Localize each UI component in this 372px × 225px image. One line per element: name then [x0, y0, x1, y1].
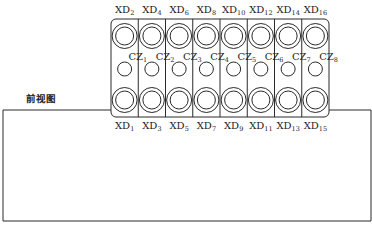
terminal-label-bottom: XD1	[115, 120, 134, 133]
view-title: 前视图	[26, 93, 56, 104]
front-view-diagram: 前视图 XD2XD4XD6XD8XD10XD12XD14XD16 CZ1CZ2C…	[0, 0, 372, 225]
terminal-inner-ring	[252, 27, 270, 45]
terminal-column	[248, 24, 273, 113]
terminal-inner-ring	[116, 27, 134, 45]
terminal-label-bottom: XD3	[142, 120, 161, 133]
terminal-inner-ring	[306, 27, 324, 45]
terminal-label-bottom: XD13	[276, 120, 299, 133]
socket-circle	[308, 62, 322, 76]
terminal-column	[194, 24, 219, 113]
socket-circle	[118, 62, 132, 76]
socket-circle	[145, 62, 159, 76]
terminal-label-bottom: XD15	[304, 120, 327, 133]
socket-circle	[227, 62, 241, 76]
terminal-label-top: XD16	[304, 4, 327, 17]
terminal-inner-ring	[116, 91, 134, 109]
terminal-label-top: XD2	[115, 4, 134, 17]
terminal-inner-ring	[279, 27, 297, 45]
socket-circle	[254, 62, 268, 76]
bottom-terminal-labels: XD1XD3XD5XD7XD9XD11XD13XD15	[115, 120, 327, 133]
terminal-inner-ring	[252, 91, 270, 109]
terminal-label-top: XD14	[276, 4, 299, 17]
terminal-column	[276, 24, 301, 113]
terminal-inner-ring	[306, 91, 324, 109]
terminal-column	[221, 24, 246, 113]
terminal-inner-ring	[197, 27, 215, 45]
terminal-inner-ring	[225, 27, 243, 45]
terminal-inner-ring	[279, 91, 297, 109]
terminal-label-top: XD12	[249, 4, 272, 17]
terminal-inner-ring	[170, 27, 188, 45]
terminal-column	[167, 24, 192, 113]
terminal-label-top: XD4	[142, 4, 161, 17]
connector-block	[111, 19, 329, 117]
terminal-inner-ring	[170, 91, 188, 109]
socket-circle	[199, 62, 213, 76]
terminal-label-bottom: XD5	[169, 120, 188, 133]
terminal-label-top: XD8	[197, 4, 216, 17]
terminal-label-bottom: XD9	[224, 120, 243, 133]
terminal-column	[303, 24, 328, 113]
terminal-inner-ring	[143, 91, 161, 109]
terminal-inner-ring	[143, 27, 161, 45]
terminal-label-bottom: XD7	[197, 120, 216, 133]
terminal-column	[139, 24, 164, 113]
socket-circle	[281, 62, 295, 76]
socket-circle	[172, 62, 186, 76]
terminal-inner-ring	[225, 91, 243, 109]
terminal-inner-ring	[197, 91, 215, 109]
terminal-label-bottom: XD11	[249, 120, 272, 133]
terminal-label-top: XD6	[169, 4, 188, 17]
terminal-label-top: XD10	[222, 4, 245, 17]
top-terminal-labels: XD2XD4XD6XD8XD10XD12XD14XD16	[115, 4, 327, 17]
terminal-column	[112, 24, 137, 113]
